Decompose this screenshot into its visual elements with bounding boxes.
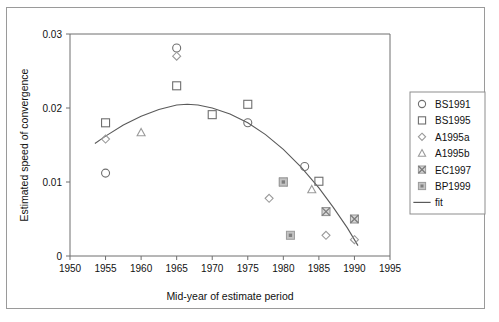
legend-label: EC1997 xyxy=(435,165,472,176)
chart-legend: BS1991BS1995A1995aA1995bEC1997BP1999fit xyxy=(410,92,485,214)
legend-marker xyxy=(418,166,425,173)
data-point xyxy=(137,128,145,135)
data-point xyxy=(102,119,110,127)
y-tick-label: 0.03 xyxy=(43,29,63,40)
series-a1995a xyxy=(102,52,359,244)
x-tick-label: 1965 xyxy=(166,263,189,274)
x-tick-label: 1955 xyxy=(94,263,117,274)
y-tick-label: 0.02 xyxy=(43,103,63,114)
data-point xyxy=(173,44,181,52)
open-triangle-marker xyxy=(308,185,316,192)
x-tick-label: 1980 xyxy=(272,263,295,274)
data-point xyxy=(322,231,330,239)
x-tick-label: 1990 xyxy=(343,263,366,274)
fit-curve-layer xyxy=(95,104,358,245)
x-tick-label: 1985 xyxy=(308,263,331,274)
legend-label: BP1999 xyxy=(435,181,471,192)
data-point xyxy=(301,162,309,170)
fit-curve xyxy=(95,104,358,245)
legend-label: BS1995 xyxy=(435,115,471,126)
open-diamond-marker xyxy=(265,194,273,202)
data-point xyxy=(279,178,287,186)
x-tick-label: 1970 xyxy=(201,263,224,274)
data-points-layer xyxy=(102,44,359,244)
series-bs1995 xyxy=(102,82,323,185)
data-point xyxy=(173,82,181,90)
data-point xyxy=(308,185,316,192)
legend-label: A1995a xyxy=(435,132,470,143)
data-point xyxy=(173,52,181,60)
data-point xyxy=(208,111,216,119)
legend-label: fit xyxy=(435,197,443,208)
legend-label: BS1991 xyxy=(435,99,471,110)
open-square-marker xyxy=(173,82,181,90)
open-diamond-marker xyxy=(173,52,181,60)
square-core-glyph xyxy=(289,234,292,237)
open-diamond-marker xyxy=(322,231,330,239)
series-bs1991 xyxy=(102,44,309,177)
square-core-glyph xyxy=(282,180,285,183)
axis-layer: 1950195519601965197019751980198519901995… xyxy=(43,29,402,274)
data-point xyxy=(102,169,110,177)
y-tick-label: 0 xyxy=(56,251,62,262)
series-bp1999 xyxy=(279,178,294,239)
x-axis-title: Mid-year of estimate period xyxy=(166,290,293,302)
figure-container: 1950195519601965197019751980198519901995… xyxy=(0,0,499,322)
legend-label: A1995b xyxy=(435,148,470,159)
open-square-marker xyxy=(244,100,252,108)
y-tick-label: 0.01 xyxy=(43,177,63,188)
open-square-marker xyxy=(208,111,216,119)
plot-frame xyxy=(70,34,390,256)
open-circle-marker xyxy=(301,162,309,170)
x-tick-label: 1950 xyxy=(59,263,82,274)
data-point xyxy=(265,194,273,202)
open-circle-marker xyxy=(102,169,110,177)
chart-canvas: 1950195519601965197019751980198519901995… xyxy=(0,0,499,322)
x-tick-label: 1975 xyxy=(237,263,260,274)
legend-marker xyxy=(418,182,425,189)
data-point xyxy=(350,215,358,223)
y-axis-title: Estimated speed of convergence xyxy=(18,68,30,221)
scatter-chart: 1950195519601965197019751980198519901995… xyxy=(0,0,499,322)
open-square-marker xyxy=(102,119,110,127)
data-point xyxy=(322,208,330,216)
series-a1995b xyxy=(137,128,316,192)
x-tick-label: 1995 xyxy=(379,263,402,274)
open-triangle-marker xyxy=(137,128,145,135)
data-point xyxy=(286,231,294,239)
square-core-glyph xyxy=(420,184,423,187)
x-tick-label: 1960 xyxy=(130,263,153,274)
open-circle-marker xyxy=(173,44,181,52)
data-point xyxy=(244,100,252,108)
